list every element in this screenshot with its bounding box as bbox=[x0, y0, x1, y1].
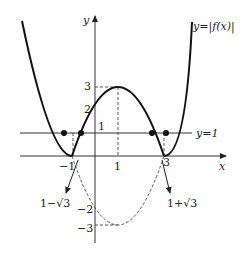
function-label: y=|f(x)| bbox=[192, 20, 235, 34]
line-label: y=1 bbox=[195, 127, 218, 140]
x-tick-1: 1 bbox=[114, 160, 121, 173]
y-tick-2: 2 bbox=[84, 103, 91, 116]
y-tick-minus-2: −2 bbox=[77, 203, 93, 216]
root-right-label: 1+√3 bbox=[167, 197, 197, 210]
axis-y-label: y bbox=[82, 14, 90, 27]
y-tick-1: 1 bbox=[98, 120, 105, 133]
x-tick-minus-1: −1 bbox=[59, 160, 75, 173]
root-left-label: 1−√3 bbox=[40, 197, 70, 210]
axis-x-label: x bbox=[219, 160, 226, 173]
y-tick-3: 3 bbox=[84, 80, 91, 93]
y-tick-minus-3: −3 bbox=[77, 222, 93, 235]
x-tick-3: 3 bbox=[163, 156, 170, 169]
graph-diagram: y x y=|f(x)| y=1 3 2 1 −2 −3 −1 1 3 1−√3… bbox=[0, 0, 246, 261]
